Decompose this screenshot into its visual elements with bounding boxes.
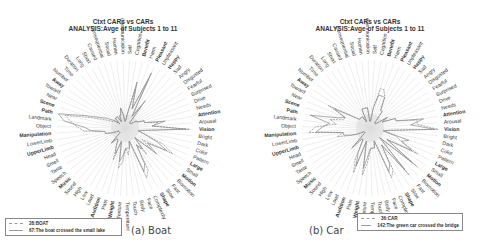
axis-label: Arousal — [199, 118, 217, 125]
chart-legend: 36:CAR 142:The green car crossed the bri… — [357, 213, 463, 231]
legend-label: 36:CAR — [381, 216, 398, 221]
axis-spoke — [125, 128, 173, 176]
axis-label: Object — [281, 123, 297, 129]
axis-label: Landmark — [273, 113, 297, 122]
axis-label: Bright — [443, 133, 458, 141]
figure-caption: (a) Boat — [131, 225, 171, 236]
axis-label: Landmark — [28, 113, 52, 122]
axis-label: Touch — [132, 201, 140, 216]
axis-label: Object — [36, 123, 52, 129]
axis-label: Body — [139, 199, 148, 212]
axis-spoke — [329, 128, 370, 183]
solid-line-swatch — [9, 230, 23, 231]
axis-label: Self — [371, 44, 378, 54]
axis-spoke — [370, 87, 424, 128]
legend-item-sentence: 142:The green car crossed the bridge — [361, 222, 459, 229]
solid-line-swatch — [361, 225, 371, 226]
axis-spoke — [84, 128, 125, 183]
axis-spoke — [307, 101, 370, 128]
legend-label: 67:The boat crossed the small lake — [29, 228, 105, 233]
panel-boat: Ctxt CARs vs CARs ANALYSIS:Avge of Subje… — [0, 0, 246, 246]
legend-label: 142:The green car crossed the bridge — [377, 223, 459, 228]
axis-label: Self — [126, 44, 133, 54]
axis-label: Weight — [107, 200, 116, 218]
legend-item-word: 36:CAR — [361, 215, 459, 222]
axis-label: Path — [286, 107, 298, 115]
axis-label: Bright — [198, 133, 213, 141]
legend-item-word: 28:BOAT — [9, 220, 118, 227]
radar-chart-boat: VisionBrightDarkColorPatternLargeSmallMo… — [0, 0, 246, 246]
radar-chart-car: VisionBrightDarkColorPatternLargeSmallMo… — [247, 0, 493, 246]
dashed-line-swatch — [9, 223, 23, 224]
legend-item-sentence: 67:The boat crossed the small lake — [9, 227, 118, 234]
axis-label: Communication — [365, 18, 372, 54]
axis-spoke — [316, 128, 370, 169]
figure-caption: (b) Car — [309, 225, 344, 236]
chart-legend: 28:BOAT 67:The boat crossed the small la… — [5, 218, 122, 236]
axis-label: Arousal — [444, 118, 462, 125]
legend-label: 28:BOAT — [29, 221, 48, 226]
axis-spoke — [71, 128, 125, 169]
axis-spoke — [322, 80, 370, 128]
axis-label: Texture — [115, 201, 122, 218]
dashed-line-swatch — [361, 218, 375, 219]
axis-label: Communication — [120, 18, 127, 54]
axis-label: Path — [41, 107, 53, 115]
axis-label: Pain — [345, 199, 353, 211]
axis-label: Vision — [444, 126, 460, 132]
axis-label: Pain — [100, 199, 108, 211]
panel-car: Ctxt CARs vs CARs ANALYSIS:Avge of Subje… — [247, 0, 493, 246]
axis-label: Body — [384, 199, 393, 212]
axis-label: Vision — [199, 126, 215, 132]
axis-spoke — [77, 80, 125, 128]
